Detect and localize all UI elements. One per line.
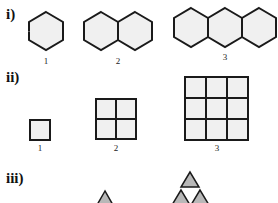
- figure-index-hex-1: 1: [44, 56, 49, 66]
- figure-index-square-3: 3: [215, 143, 220, 153]
- figure-index-hex-2: 2: [116, 56, 121, 66]
- triangle-figure-2: [97, 191, 113, 203]
- square-grid-1x1: [30, 120, 50, 140]
- hexagon-figure-2: [84, 12, 152, 50]
- figure-index-square-1: 1: [38, 143, 43, 153]
- figure-index-hex-3: 3: [223, 52, 228, 62]
- hexagon-figure-3: [174, 8, 276, 47]
- square-grid-3x3: [185, 77, 248, 140]
- triangle-figure-3: [172, 172, 209, 203]
- matchstick-pattern-diagram: [0, 0, 278, 203]
- hexagon-figure-1: [29, 12, 63, 50]
- figure-index-square-2: 2: [114, 143, 119, 153]
- square-grid-2x2: [96, 99, 136, 139]
